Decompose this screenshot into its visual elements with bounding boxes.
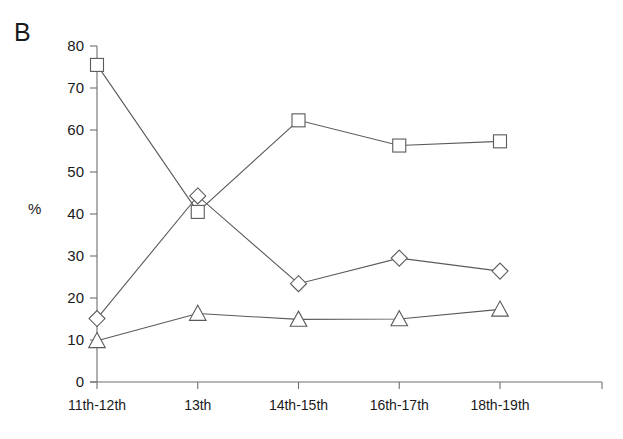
diamond-marker [89,311,105,327]
square-marker [91,58,104,71]
y-tick-label: 80 [67,37,84,54]
x-axis-tick-group: 11th-12th13th14th-15th16th-17th18th-19th [68,382,602,413]
y-tick-label: 20 [67,289,84,306]
series-line [97,196,500,319]
y-tick-label: 50 [67,163,84,180]
series-line [97,65,500,212]
triangle-marker [492,301,509,316]
series-diamond [89,188,508,327]
diamond-marker [492,263,508,279]
y-tick-label: 30 [67,247,84,264]
series-square [91,58,507,218]
axis-lines [90,46,602,382]
y-tick-label: 60 [67,121,84,138]
y-tick-label: 40 [67,205,84,222]
x-tick-label: 16th-17th [370,397,429,413]
square-marker [494,135,507,148]
y-tick-label: 10 [67,331,84,348]
square-marker [393,139,406,152]
series-triangle [89,301,509,348]
x-tick-label: 11th-12th [68,397,126,413]
x-tick-label: 14th-15th [269,397,328,413]
y-tick-label: 70 [67,79,84,96]
line-chart-plot: 01020304050607080 11th-12th13th14th-15th… [0,0,623,439]
triangle-marker [189,305,206,320]
y-tick-label: 0 [76,373,84,390]
square-marker [292,114,305,127]
x-tick-label: 13th [184,397,211,413]
x-tick-label: 18th-19th [470,397,529,413]
diamond-marker [391,250,407,266]
square-marker [191,205,204,218]
data-series-group [89,58,509,347]
y-axis-tick-group: 01020304050607080 [67,37,97,390]
chart-figure: B % 01020304050607080 11th-12th13th14th-… [0,0,623,439]
